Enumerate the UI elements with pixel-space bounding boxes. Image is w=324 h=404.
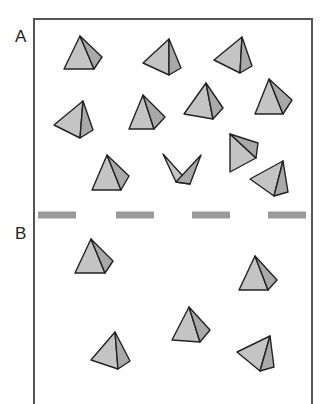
pyramid-icon	[250, 161, 288, 196]
divider-dash	[116, 212, 154, 219]
pyramid-icon	[214, 37, 252, 73]
divider-dash	[192, 212, 230, 219]
divider-dash	[38, 212, 76, 219]
dashed-divider	[38, 212, 306, 219]
region-b-pyramids	[75, 239, 277, 371]
region-a-pyramids	[54, 36, 292, 196]
pyramid-icon	[64, 36, 102, 69]
pyramid-icon	[255, 79, 292, 114]
pyramid-icon	[143, 39, 181, 75]
pyramid-icon	[92, 155, 129, 190]
pyramid-icon	[75, 239, 113, 273]
divider-dash	[268, 212, 306, 219]
pyramid-diagram	[0, 0, 324, 404]
pyramid-icon	[184, 83, 223, 119]
pyramid-icon	[129, 95, 165, 129]
pyramid-icon	[239, 256, 277, 290]
pyramid-icon	[172, 307, 210, 342]
pyramid-icon	[163, 154, 201, 184]
pyramid-icon	[54, 101, 93, 138]
pyramid-icon	[230, 134, 258, 172]
pyramid-icon	[237, 336, 274, 371]
pyramid-icon	[91, 332, 130, 369]
